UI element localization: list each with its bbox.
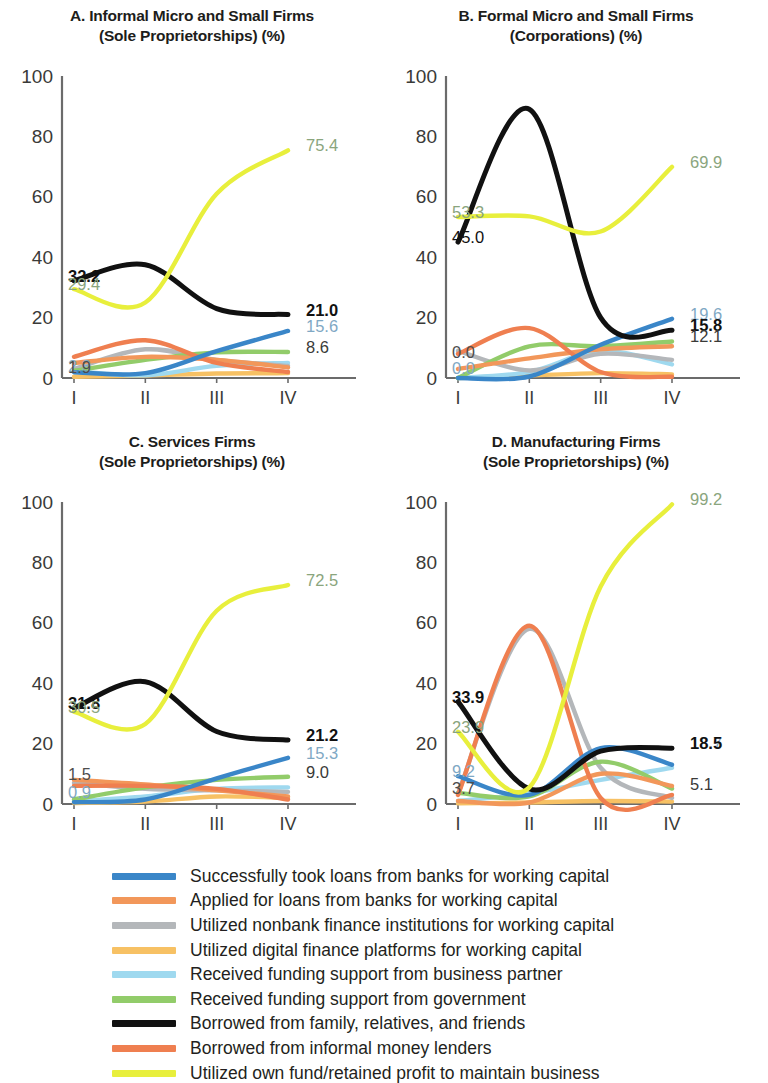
y-tick-label: 80 bbox=[32, 552, 53, 573]
legend-item[interactable]: Successfully took loans from banks for w… bbox=[112, 864, 614, 889]
panel-d-title-line2: (Sole Proprietorships) (%) bbox=[384, 452, 768, 472]
right-value-label: 99.2 bbox=[690, 490, 722, 508]
legend-label: Borrowed from informal money lenders bbox=[190, 1038, 492, 1059]
legend-swatch bbox=[112, 947, 176, 954]
y-tick-label: 60 bbox=[32, 612, 53, 633]
x-tick-label: I bbox=[455, 814, 460, 834]
y-tick-label: 0 bbox=[42, 368, 53, 389]
y-tick-label: 80 bbox=[416, 552, 437, 573]
legend-swatch bbox=[112, 1020, 176, 1027]
legend-item[interactable]: Received funding support from government bbox=[112, 987, 614, 1012]
panel-c: C. Services Firms (Sole Proprietorships)… bbox=[0, 426, 384, 852]
right-value-label: 8.6 bbox=[306, 338, 329, 356]
series-line bbox=[74, 681, 288, 740]
panel-d-title: D. Manufacturing Firms (Sole Proprietors… bbox=[384, 432, 768, 473]
series-line bbox=[458, 626, 672, 810]
y-tick-label: 60 bbox=[416, 612, 437, 633]
panel-d-svg: 020406080100IIIIIIIV33.923.99.23.799.218… bbox=[384, 488, 768, 848]
y-tick-label: 20 bbox=[416, 307, 437, 328]
figure-root: A. Informal Micro and Small Firms (Sole … bbox=[0, 0, 768, 1083]
series-line bbox=[74, 264, 288, 315]
legend-label: Successfully took loans from banks for w… bbox=[190, 866, 609, 887]
y-tick-label: 0 bbox=[426, 368, 437, 389]
legend-label: Received funding support from business p… bbox=[190, 964, 563, 985]
left-value-label: 1.5 bbox=[68, 765, 91, 783]
legend-item[interactable]: Borrowed from family, relatives, and fri… bbox=[112, 1012, 614, 1037]
right-value-label: 15.6 bbox=[306, 317, 338, 335]
right-value-label: 9.0 bbox=[306, 763, 329, 781]
y-tick-label: 100 bbox=[405, 66, 437, 87]
legend-item[interactable]: Utilized own fund/retained profit to mai… bbox=[112, 1061, 614, 1083]
panel-grid: A. Informal Micro and Small Firms (Sole … bbox=[0, 0, 768, 852]
legend-swatch bbox=[112, 1070, 176, 1077]
x-tick-label: I bbox=[71, 388, 76, 408]
panel-c-plot: 020406080100IIIIIIIV31.830.51.50.972.521… bbox=[0, 488, 384, 848]
left-value-label: 1.9 bbox=[68, 358, 91, 376]
legend-item[interactable]: Borrowed from informal money lenders bbox=[112, 1036, 614, 1061]
left-value-label: 0.0 bbox=[452, 359, 475, 377]
right-value-label: 75.4 bbox=[306, 136, 338, 154]
left-value-label: 53.3 bbox=[452, 203, 484, 221]
panel-b: B. Formal Micro and Small Firms (Corpora… bbox=[384, 0, 768, 426]
legend-item[interactable]: Utilized digital finance platforms for w… bbox=[112, 938, 614, 963]
y-tick-label: 0 bbox=[426, 794, 437, 815]
left-value-label: 33.9 bbox=[452, 688, 484, 706]
y-tick-label: 40 bbox=[416, 673, 437, 694]
legend-item[interactable]: Applied for loans from banks for working… bbox=[112, 889, 614, 914]
left-value-label: 30.5 bbox=[68, 698, 100, 716]
legend-label: Borrowed from family, relatives, and fri… bbox=[190, 1013, 525, 1034]
x-tick-label: II bbox=[140, 814, 150, 834]
y-tick-label: 80 bbox=[416, 126, 437, 147]
left-value-label: 23.9 bbox=[452, 718, 484, 736]
series-line bbox=[458, 108, 672, 337]
legend-label: Applied for loans from banks for working… bbox=[190, 890, 558, 911]
panel-d-plot: 020406080100IIIIIIIV33.923.99.23.799.218… bbox=[384, 488, 768, 848]
x-tick-label: III bbox=[593, 814, 608, 834]
x-tick-label: IV bbox=[279, 814, 296, 834]
chart-legend: Successfully took loans from banks for w… bbox=[0, 858, 768, 1083]
panel-d-title-line1: D. Manufacturing Firms bbox=[384, 432, 768, 452]
y-tick-label: 20 bbox=[32, 307, 53, 328]
right-value-label: 21.2 bbox=[306, 726, 338, 744]
y-tick-label: 40 bbox=[32, 247, 53, 268]
panel-b-title-line2: (Corporations) (%) bbox=[384, 26, 768, 46]
x-tick-label: II bbox=[140, 388, 150, 408]
legend-item[interactable]: Received funding support from business p… bbox=[112, 962, 614, 987]
panel-d: D. Manufacturing Firms (Sole Proprietors… bbox=[384, 426, 768, 852]
left-value-label: 0.0 bbox=[452, 343, 475, 361]
legend-swatch bbox=[112, 971, 176, 978]
legend-item[interactable]: Utilized nonbank finance institutions fo… bbox=[112, 913, 614, 938]
panel-a-title-line1: A. Informal Micro and Small Firms bbox=[0, 6, 384, 26]
right-value-label: 21.0 bbox=[306, 301, 338, 319]
panel-b-plot: 020406080100IIIIIIIV53.345.00.00.069.919… bbox=[384, 62, 768, 422]
legend-swatch bbox=[112, 873, 176, 880]
y-tick-label: 40 bbox=[416, 247, 437, 268]
legend-label: Utilized digital finance platforms for w… bbox=[190, 940, 582, 961]
right-value-label: 5.1 bbox=[690, 775, 713, 793]
panel-c-svg: 020406080100IIIIIIIV31.830.51.50.972.521… bbox=[0, 488, 384, 848]
panel-c-title-line1: C. Services Firms bbox=[0, 432, 384, 452]
panel-a-svg: 020406080100IIIIIIIV32.229.42.31.975.421… bbox=[0, 62, 384, 422]
legend-list: Successfully took loans from banks for w… bbox=[112, 864, 614, 1083]
y-tick-label: 60 bbox=[416, 186, 437, 207]
x-tick-label: I bbox=[71, 814, 76, 834]
legend-label: Received funding support from government bbox=[190, 989, 526, 1010]
panel-a: A. Informal Micro and Small Firms (Sole … bbox=[0, 0, 384, 426]
left-value-label: 45.0 bbox=[452, 228, 484, 246]
y-tick-label: 20 bbox=[416, 733, 437, 754]
x-tick-label: III bbox=[209, 388, 224, 408]
panel-a-plot: 020406080100IIIIIIIV32.229.42.31.975.421… bbox=[0, 62, 384, 422]
right-value-label: 72.5 bbox=[306, 571, 338, 589]
x-tick-label: III bbox=[593, 388, 608, 408]
right-value-label: 18.5 bbox=[690, 734, 722, 752]
y-tick-label: 20 bbox=[32, 733, 53, 754]
legend-swatch bbox=[112, 996, 176, 1003]
x-tick-label: III bbox=[209, 814, 224, 834]
left-value-label: 9.2 bbox=[452, 762, 475, 780]
x-tick-label: IV bbox=[279, 388, 296, 408]
legend-swatch bbox=[112, 922, 176, 929]
legend-swatch bbox=[112, 1045, 176, 1052]
x-tick-label: IV bbox=[663, 388, 680, 408]
right-value-label: 69.9 bbox=[690, 153, 722, 171]
x-tick-label: IV bbox=[663, 814, 680, 834]
